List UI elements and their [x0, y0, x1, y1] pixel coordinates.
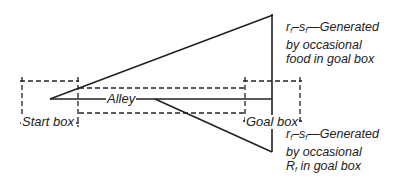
frustration-gradient-line3: Rf in goal box	[286, 159, 379, 177]
food-gradient-line3: food in goal box	[286, 52, 379, 66]
food-gradient-line2: by occasional	[286, 38, 379, 52]
food-gradient-triangle	[50, 14, 273, 99]
alley-label: Alley	[106, 92, 136, 106]
start-box-label: Start box	[21, 115, 75, 129]
frustration-gradient-note: rf–sf—Generated by occasional Rf in goal…	[286, 127, 379, 177]
frustration-gradient-line1: rf–sf—Generated	[286, 127, 379, 145]
food-gradient-line1: rf–sf—Generated	[286, 20, 379, 38]
food-gradient-note: rf–sf—Generated by occasional food in go…	[286, 20, 379, 66]
alley-outline	[79, 88, 245, 113]
frustration-gradient-line2: by occasional	[286, 145, 379, 159]
